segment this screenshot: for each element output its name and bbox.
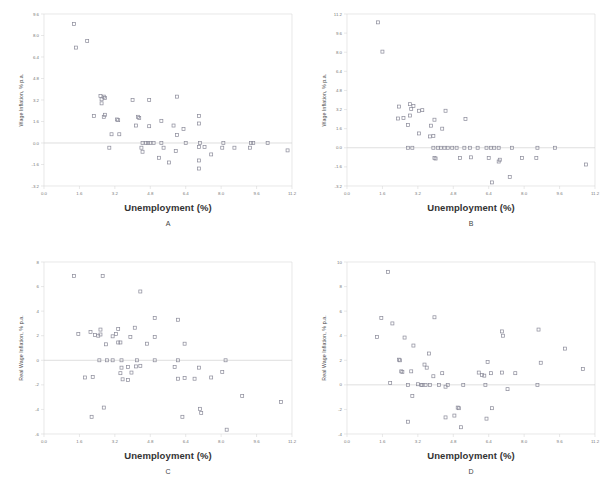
data-point-marker (158, 156, 161, 159)
scatter-plot-figure: Wage Inflation, % p.a.Unemployment (%)A-… (0, 0, 605, 495)
data-point-marker (198, 366, 201, 369)
data-point-marker (99, 94, 102, 97)
data-point-marker (148, 125, 151, 128)
x-tick-label: 4.8 (450, 439, 457, 444)
data-point-marker (118, 133, 121, 136)
x-tick-label: 6.4 (486, 439, 493, 444)
data-point-marker (508, 176, 511, 179)
plot-area: -6-4-2024680.01.63.24.86.48.09.611.2 (0, 248, 302, 495)
data-point-marker (423, 363, 426, 366)
y-tick-label: -1.6 (31, 162, 39, 167)
panel-a-body: Wage Inflation, % p.a.Unemployment (%)A-… (0, 0, 302, 247)
data-point-marker (585, 163, 588, 166)
data-points (72, 275, 282, 432)
y-tick-label: 10 (337, 260, 342, 265)
data-point-marker (119, 372, 122, 375)
data-point-marker (417, 132, 420, 135)
panel-d-body: Real Wage Inflation, % p.a.Unemployment … (303, 248, 605, 495)
data-point-marker (203, 146, 206, 149)
data-point-marker (198, 115, 201, 118)
data-point-marker (477, 371, 480, 374)
data-point-marker (200, 412, 203, 415)
data-point-marker (129, 335, 132, 338)
x-tick-label: 6.4 (183, 191, 190, 196)
data-point-marker (389, 382, 392, 385)
x-tick-label: 9.6 (557, 439, 564, 444)
panel-c-body: Real Wage Inflation, % p.a.Unemployment … (0, 248, 302, 495)
y-tick-label: -3.2 (31, 184, 39, 189)
x-tick-label: 1.6 (379, 439, 386, 444)
data-point-marker (105, 343, 108, 346)
x-tick-label: 8.0 (218, 439, 225, 444)
x-axis-ticks: 0.01.63.24.86.48.09.611.2 (41, 186, 297, 196)
data-point-marker (117, 327, 120, 330)
data-point-marker (491, 407, 494, 410)
data-point-marker (72, 275, 75, 278)
x-tick-label: 9.6 (557, 191, 564, 196)
data-point-marker (141, 150, 144, 153)
data-point-marker (233, 146, 236, 149)
x-tick-label: 3.2 (415, 439, 422, 444)
data-point-marker (433, 316, 436, 319)
y-tick-label: 6.4 (336, 69, 343, 74)
data-point-marker (198, 122, 201, 125)
data-point-marker (489, 372, 492, 375)
data-point-marker (421, 109, 424, 112)
y-tick-label: 1.6 (336, 126, 343, 131)
panel-c: Real Wage Inflation, % p.a.Unemployment … (0, 248, 302, 495)
data-point-marker (91, 375, 94, 378)
y-tick-label: -4 (35, 407, 39, 412)
data-point-marker (581, 367, 584, 370)
data-point-marker (539, 361, 542, 364)
x-tick-label: 4.8 (147, 439, 154, 444)
data-point-marker (103, 113, 106, 116)
data-point-marker (444, 416, 447, 419)
y-tick-label: 0.0 (336, 145, 343, 150)
x-axis-ticks: 0.01.63.24.86.48.09.611.2 (344, 434, 600, 444)
data-point-marker (432, 375, 435, 378)
data-point-marker (198, 146, 201, 149)
data-point-marker (537, 328, 540, 331)
data-point-marker (485, 417, 488, 420)
data-point-marker (72, 23, 75, 26)
data-point-marker (160, 119, 163, 122)
data-point-marker (172, 124, 175, 127)
data-point-marker (92, 115, 95, 118)
data-point-marker (406, 124, 409, 127)
data-point-marker (183, 377, 186, 380)
data-point-marker (460, 426, 463, 429)
x-tick-label: 1.6 (76, 439, 83, 444)
plot-frame (347, 262, 595, 434)
data-point-marker (221, 370, 224, 373)
data-point-marker (77, 332, 80, 335)
data-point-marker (162, 146, 165, 149)
data-point-marker (210, 153, 213, 156)
panel-d: Real Wage Inflation, % p.a.Unemployment … (303, 248, 605, 495)
y-axis-ticks: -3.2-1.60.01.63.24.86.48.09.611.2 (334, 12, 347, 189)
data-point-marker (248, 146, 251, 149)
data-point-marker (193, 377, 196, 380)
data-point-marker (225, 428, 228, 431)
data-point-marker (411, 394, 414, 397)
panel-a: Wage Inflation, % p.a.Unemployment (%)A-… (0, 0, 302, 247)
data-point-marker (386, 270, 389, 273)
data-point-marker (139, 364, 142, 367)
data-point-marker (506, 388, 509, 391)
y-axis-ticks: -4-20246810 (337, 260, 347, 437)
data-point-marker (409, 103, 412, 106)
data-point-marker (153, 316, 156, 319)
data-point-marker (429, 135, 432, 138)
x-tick-label: 0.0 (41, 191, 48, 196)
data-point-marker (444, 109, 447, 112)
data-point-marker (453, 414, 456, 417)
data-point-marker (377, 21, 380, 24)
y-tick-label: -3.2 (334, 184, 342, 189)
data-point-marker (520, 156, 523, 159)
y-tick-label: 3.2 (336, 107, 343, 112)
y-tick-label: 2 (37, 333, 40, 338)
data-point-marker (564, 347, 567, 350)
y-tick-label: 2 (340, 358, 343, 363)
data-point-marker (100, 102, 103, 105)
plot-area: -3.2-1.60.01.63.24.86.48.09.60.01.63.24.… (0, 0, 302, 247)
data-point-marker (127, 366, 130, 369)
